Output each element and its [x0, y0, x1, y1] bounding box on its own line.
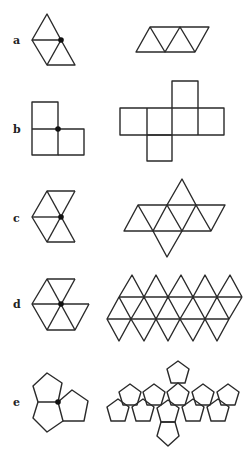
net-dodecahedron [107, 361, 239, 446]
label-c: c [13, 212, 20, 225]
vertex-dot [58, 301, 64, 307]
platonic-solids-figure: a b c [0, 0, 251, 459]
row-a: a [13, 14, 209, 65]
net-tetrahedron [136, 27, 209, 52]
net-cube [120, 81, 224, 161]
label-e: e [13, 396, 20, 409]
label-b: b [13, 123, 21, 136]
vertex-dot [55, 399, 61, 405]
label-d: d [13, 298, 21, 311]
row-e: e [13, 361, 239, 446]
vertex-dot [58, 214, 64, 220]
row-d: d [13, 275, 242, 341]
vertex-dot [55, 126, 61, 132]
net-icosahedron [107, 275, 242, 341]
net-octahedron [124, 179, 225, 257]
vertex-figure-d [32, 279, 89, 330]
row-c: c [13, 179, 225, 257]
vertex-figure-a [32, 14, 75, 65]
row-b: b [13, 81, 224, 161]
vertex-figure-b [32, 102, 84, 155]
label-a: a [13, 34, 20, 47]
vertex-dot [58, 37, 64, 43]
vertex-figure-e [33, 373, 88, 432]
vertex-figure-c [32, 191, 75, 242]
